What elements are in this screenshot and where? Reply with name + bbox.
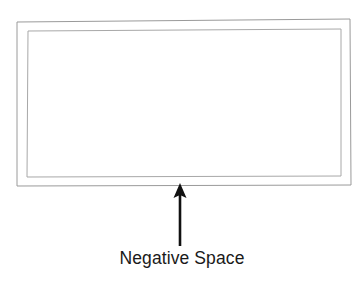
negative-space-label: Negative Space [0,247,364,269]
canvas-background [0,0,364,283]
negative-space-diagram [0,0,364,283]
